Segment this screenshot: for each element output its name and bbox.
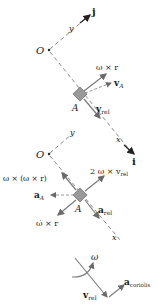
block-a-2	[73, 188, 87, 202]
origin-label-2: O	[36, 149, 44, 160]
v-rel-label: vrel	[95, 104, 110, 115]
x-label: x	[116, 135, 121, 144]
omega-dot-cross-r-arrow	[58, 200, 76, 215]
omega-label: ω	[91, 252, 99, 262]
j-unit-arrow	[80, 15, 90, 23]
y-axis-line	[50, 20, 84, 49]
omega-dot-cross-r-label: ω̇ × r	[36, 219, 58, 228]
centripetal-label: ω × (ω × r)	[3, 174, 47, 183]
acceleration-panel: y O x A ω × (ω × r) 2 ω × vrel aA ω̇ × r…	[3, 128, 128, 242]
coriolis-2omega-arrow	[85, 176, 104, 191]
i-unit-arrow	[124, 145, 134, 154]
omega-cross-r-arrow	[84, 74, 106, 91]
v-a-arrow	[85, 83, 111, 93]
origin-label: O	[36, 45, 44, 56]
omega-cross-r-label: ω × r	[96, 63, 118, 72]
x-label-2: x	[112, 233, 117, 242]
a-rel-arrow	[85, 200, 99, 218]
a-coriolis-label: acoriolis	[124, 277, 150, 288]
a-a-label: aA	[34, 190, 45, 201]
omega-rotation-arrow	[72, 263, 93, 277]
y-label: y	[68, 24, 74, 33]
a-coriolis-arrow	[109, 285, 124, 297]
i-label: i	[132, 156, 136, 167]
coriolis-panel: ω vrel acoriolis	[72, 252, 150, 301]
point-a-label-2: A	[74, 204, 82, 214]
origin-dot	[48, 49, 50, 51]
velocity-panel: j y O i x A ω × r vA vrel	[36, 6, 136, 167]
v-rel-label-3: vrel	[82, 290, 97, 301]
a-rel-label: arel	[98, 205, 112, 216]
block-a	[73, 87, 87, 101]
j-label: j	[91, 6, 96, 17]
y-label-2: y	[69, 128, 75, 137]
centripetal-arrow	[62, 173, 76, 190]
y-axis-line-2	[50, 134, 72, 153]
point-a-label: A	[71, 103, 79, 113]
kinematics-diagram: j y O i x A ω × r vA vrel y O x	[0, 0, 158, 307]
v-rel-line	[75, 258, 107, 297]
v-a-label: vA	[113, 78, 124, 89]
coriolis-2omega-label: 2 ω × vrel	[90, 167, 128, 177]
origin-dot-2	[48, 153, 50, 155]
